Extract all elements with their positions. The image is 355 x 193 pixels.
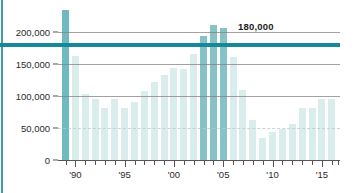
x-tick-2006 (233, 161, 234, 165)
bar-2014 (309, 108, 316, 160)
x-tick-2008 (253, 161, 254, 165)
bar-1995 (121, 108, 128, 160)
x-tick-1994 (115, 161, 116, 165)
bar-2007 (239, 90, 246, 160)
bar-1994 (111, 99, 118, 160)
x-tick-2013 (302, 161, 303, 165)
x-tick-2005 (223, 161, 224, 167)
x-tick-2004 (213, 161, 214, 165)
x-tick-1998 (154, 161, 155, 165)
x-tick-1999 (164, 161, 165, 165)
x-tick-1991 (85, 161, 86, 165)
x-tick-1992 (95, 161, 96, 165)
gridline-100000 (58, 96, 340, 97)
x-tick-2014 (312, 161, 313, 165)
x-tick-label-10: '10 (266, 169, 278, 180)
bar-2002 (190, 54, 197, 160)
x-tick-1990 (75, 161, 76, 167)
bar-1992 (92, 99, 99, 160)
x-tick-label-05: '05 (217, 169, 229, 180)
bar-2006 (230, 57, 237, 160)
x-tick-2016 (332, 161, 333, 165)
bar-2001 (180, 69, 187, 160)
bar-1990 (72, 56, 79, 160)
threshold-line (0, 43, 340, 47)
bar-2009 (259, 138, 266, 160)
chart-screenshot: 050,000100,000150,000200,000 180,000 '90… (0, 0, 355, 193)
x-tick-1993 (105, 161, 106, 165)
bar-2008 (249, 120, 256, 160)
gridline-200000 (58, 32, 340, 33)
bar-2005 (220, 28, 227, 160)
threshold-label: 180,000 (238, 21, 274, 32)
x-tick-label-00: '00 (168, 169, 180, 180)
x-tick-label-15: '15 (316, 169, 328, 180)
x-tick-2002 (194, 161, 195, 165)
bar-1999 (161, 75, 168, 160)
bar-2013 (299, 108, 306, 160)
bar-2010 (269, 132, 276, 160)
gridline-150000 (58, 64, 340, 65)
plot-area (58, 0, 340, 161)
y-axis: 050,000100,000150,000200,000 (0, 0, 58, 165)
bar-1997 (141, 91, 148, 160)
x-axis: '90'95'00'05'10'15 (58, 160, 340, 193)
bar-series (58, 0, 340, 160)
x-tick-1996 (135, 161, 136, 165)
x-tick-2011 (282, 161, 283, 165)
y-tick-label-150000: 150,000 (16, 59, 50, 70)
bar-2003 (200, 36, 207, 160)
x-tick-1997 (144, 161, 145, 165)
bar-2016 (328, 99, 335, 160)
x-tick-label-90: '90 (69, 169, 81, 180)
bar-2015 (318, 99, 325, 160)
bar-2011 (279, 129, 286, 160)
x-tick-2000 (174, 161, 175, 167)
x-tick-1995 (125, 161, 126, 167)
y-tick-label-100000: 100,000 (16, 91, 50, 102)
x-tick-2012 (292, 161, 293, 165)
x-tick-2015 (322, 161, 323, 167)
y-tick-label-200000: 200,000 (16, 27, 50, 38)
x-tick-end (338, 161, 339, 165)
y-tick-label-50000: 50,000 (21, 123, 50, 134)
gridline-50000 (58, 128, 340, 129)
x-tick-2009 (263, 161, 264, 165)
x-tick-2003 (204, 161, 205, 165)
x-tick-label-95: '95 (118, 169, 130, 180)
bar-1993 (101, 108, 108, 160)
bar-1998 (151, 82, 158, 160)
y-tick-label-0: 0 (45, 155, 50, 166)
x-tick-2007 (243, 161, 244, 165)
x-tick-1989 (66, 161, 67, 165)
x-tick-2010 (273, 161, 274, 167)
bar-2012 (289, 124, 296, 160)
x-tick-2001 (184, 161, 185, 165)
bar-1996 (131, 102, 138, 160)
bar-2000 (170, 68, 177, 160)
